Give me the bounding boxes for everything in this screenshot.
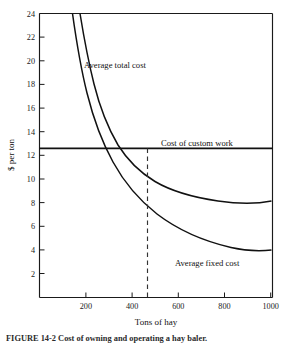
y-tick-label: 12: [27, 151, 35, 160]
average-fixed-cost-curve: [73, 14, 272, 251]
average-total-cost-curve: [80, 14, 272, 204]
x-axis-ticks: [86, 293, 271, 298]
cost-of-custom-work-label: Cost of custom work: [161, 138, 234, 148]
y-tick-label: 6: [31, 222, 35, 231]
y-axis-title: $ per ton: [6, 139, 16, 171]
x-tick-label: 800: [218, 302, 230, 311]
plot-frame: [40, 14, 273, 298]
x-tick-label: 1000: [263, 302, 279, 311]
x-tick-label: 400: [126, 302, 138, 311]
x-axis-tick-labels: 200 400 600 800 1000: [80, 302, 279, 311]
y-tick-label: 22: [27, 33, 35, 42]
y-tick-label: 20: [27, 57, 35, 66]
y-tick-label: 10: [27, 175, 35, 184]
average-total-cost-label: Average total cost: [84, 60, 146, 70]
x-tick-label: 200: [80, 302, 92, 311]
y-tick-label: 14: [27, 128, 35, 137]
y-tick-label: 8: [31, 199, 35, 208]
y-tick-label: 16: [27, 104, 35, 113]
y-tick-label: 24: [27, 10, 35, 19]
y-tick-label: 4: [31, 246, 35, 255]
y-axis-ticks: [40, 14, 45, 274]
y-axis-tick-labels: 24 22 20 18 16 14 12 10 8 6 4 2: [27, 10, 35, 279]
figure-caption: FIGURE 14-2 Cost of owning and operating…: [6, 334, 288, 344]
x-axis-title: Tons of hay: [135, 317, 178, 327]
y-tick-label: 18: [27, 80, 35, 89]
x-tick-label: 600: [172, 302, 184, 311]
average-fixed-cost-label: Average fixed cost: [175, 258, 240, 268]
y-tick-label: 2: [31, 270, 35, 279]
